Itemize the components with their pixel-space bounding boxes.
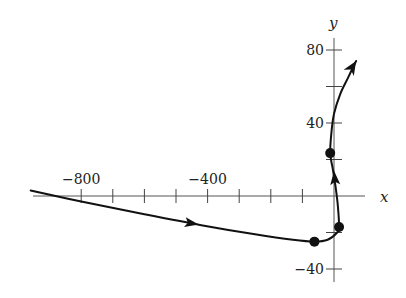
x-tick-labels: −800−400 bbox=[62, 171, 227, 187]
y-tick-label: −40 bbox=[294, 261, 324, 277]
marked-point bbox=[309, 237, 319, 247]
trajectory-curve bbox=[31, 61, 356, 242]
y-tick-label: 80 bbox=[306, 42, 324, 58]
y-tick-label: 40 bbox=[306, 115, 324, 131]
direction-arrow-icon bbox=[344, 58, 362, 76]
trajectory-plot: −800−400 8040−40 x y bbox=[0, 0, 406, 298]
marked-points bbox=[309, 148, 344, 247]
marked-point bbox=[325, 148, 335, 158]
x-axis-label: x bbox=[380, 188, 389, 206]
y-axis-label: y bbox=[328, 14, 338, 32]
x-tick-label: −800 bbox=[62, 171, 100, 187]
x-tick-label: −400 bbox=[188, 171, 226, 187]
direction-arrows bbox=[184, 58, 361, 230]
marked-point bbox=[334, 222, 344, 232]
